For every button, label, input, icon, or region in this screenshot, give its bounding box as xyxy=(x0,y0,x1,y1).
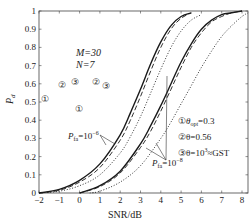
svg-text:Pfa=10−8: Pfa=10−8 xyxy=(151,157,183,169)
y-tick-label: 0 xyxy=(32,188,37,198)
x-tick-label: 5 xyxy=(179,195,184,205)
y-tick-label: 0.9 xyxy=(25,24,37,34)
y-tick-label: 1 xyxy=(32,6,37,16)
y-tick-label: 0.2 xyxy=(25,152,36,162)
x-tick-label: 8 xyxy=(240,195,245,205)
plot-border xyxy=(39,11,248,193)
x-tick-label: 1 xyxy=(98,195,103,205)
y-tick-label: 0.1 xyxy=(25,170,36,180)
x-tick-label: 0 xyxy=(77,195,82,205)
svg-text:Pfa=10−6: Pfa=10−6 xyxy=(67,130,99,142)
curves xyxy=(39,11,248,193)
y-tick-label: 0.7 xyxy=(25,61,37,71)
param-n: N=7 xyxy=(75,59,95,70)
curve-marker-3-right: ③ xyxy=(102,81,110,91)
y-tick-label: 0.3 xyxy=(25,133,37,143)
curve-marker-3-left: ③ xyxy=(71,77,79,87)
y-tick-label: 0.8 xyxy=(25,42,37,52)
curve-marker-2-left: ② xyxy=(58,80,66,90)
x-tick-label: −1 xyxy=(55,195,65,205)
pfa-1e-6-annotation: Pfa=10−6 xyxy=(67,130,115,145)
curve-marker-1-left: ① xyxy=(41,94,49,104)
y-tick-label: 0.6 xyxy=(25,79,37,89)
x-tick-label: 7 xyxy=(219,195,224,205)
y-tick-label: 0.5 xyxy=(25,97,37,107)
x-tick-label: 6 xyxy=(199,195,204,205)
legend-item-3: ③θ=103≈GST xyxy=(178,147,230,158)
y-axis-label: Pd xyxy=(4,94,17,105)
x-tick-label: 4 xyxy=(159,195,164,205)
legend: ①θopt=0.3 ②θ=0.56 ③θ=103≈GST xyxy=(178,116,230,158)
curve-dotted xyxy=(39,15,201,193)
x-tick-label: 2 xyxy=(118,195,123,205)
x-tick-label: 3 xyxy=(138,195,143,205)
x-axis-label: SNR/dB xyxy=(108,209,142,220)
legend-item-2: ②θ=0.56 xyxy=(178,132,212,142)
detection-probability-chart: −2−101234567800.10.20.30.40.50.60.70.80.… xyxy=(0,0,250,224)
curve-marker-1-right: ① xyxy=(75,104,83,114)
param-m: M=30 xyxy=(75,47,101,58)
curve-marker-2-right: ② xyxy=(92,77,100,87)
legend-item-1: ①θopt=0.3 xyxy=(178,116,215,127)
y-tick-label: 0.4 xyxy=(25,115,37,125)
